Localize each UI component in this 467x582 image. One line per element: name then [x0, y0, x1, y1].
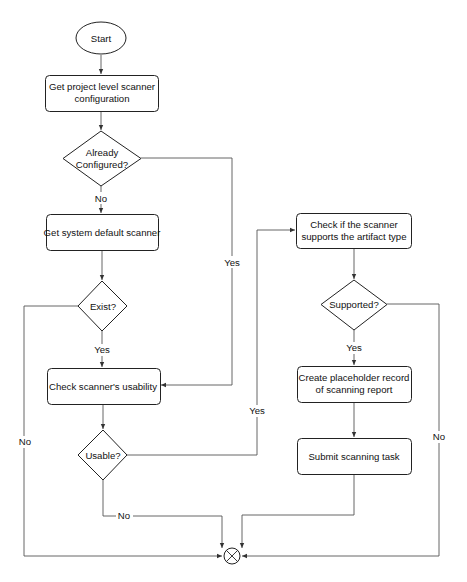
node-already-configured: Already Configured?: [63, 131, 141, 186]
edge-usable-yes: [127, 230, 295, 455]
label-supported-no: No: [433, 431, 445, 442]
node-label-line1: Check if the scanner: [310, 219, 398, 230]
edge-configured-yes: [141, 158, 232, 385]
node-supported: Supported?: [321, 280, 387, 330]
node-usable: Usable?: [78, 430, 127, 480]
label-usable-no: No: [118, 510, 130, 521]
decision-label: Supported?: [329, 299, 379, 310]
edge-submit-to-merge: [242, 474, 354, 548]
label-exist-no: No: [19, 436, 31, 447]
node-get-project-config: Get project level scanner configuration: [46, 76, 159, 112]
node-label-line1: Get project level scanner: [49, 81, 156, 92]
node-label-line2: supports the artifact type: [301, 231, 406, 242]
node-label-line1: Create placeholder record: [299, 372, 410, 383]
node-label-line2: configuration: [75, 93, 130, 104]
node-label: Check scanner's usability: [49, 381, 157, 392]
node-check-usability: Check scanner's usability: [48, 369, 161, 405]
label-supported-yes: Yes: [346, 342, 362, 353]
label-exist-yes: Yes: [94, 344, 110, 355]
edge-supported-no: [242, 304, 439, 556]
cropped-caption: [20, 575, 220, 582]
node-exist: Exist?: [78, 281, 127, 331]
node-start: Start: [76, 22, 126, 54]
label-usable-yes: Yes: [249, 405, 265, 416]
node-create-placeholder: Create placeholder record of scanning re…: [298, 367, 412, 403]
label-configured-no: No: [95, 193, 107, 204]
decision-label: Exist?: [90, 301, 116, 312]
flowchart-canvas: No Yes Yes No Yes No Yes No Start Get pr…: [0, 0, 467, 582]
node-label: Submit scanning task: [308, 451, 399, 462]
decision-label-line1: Already: [86, 147, 119, 158]
decision-label: Usable?: [85, 450, 120, 461]
node-label-line2: of scanning report: [316, 384, 393, 395]
label-configured-yes: Yes: [224, 257, 240, 268]
node-check-artifact-support: Check if the scanner supports the artifa…: [297, 214, 412, 249]
decision-label-line2: Configured?: [76, 159, 128, 170]
node-get-system-default: Get system default scanner: [44, 215, 162, 251]
start-label: Start: [91, 33, 112, 44]
node-label: Get system default scanner: [44, 227, 162, 238]
node-submit-task: Submit scanning task: [298, 439, 412, 475]
node-end-merge: [224, 548, 240, 564]
